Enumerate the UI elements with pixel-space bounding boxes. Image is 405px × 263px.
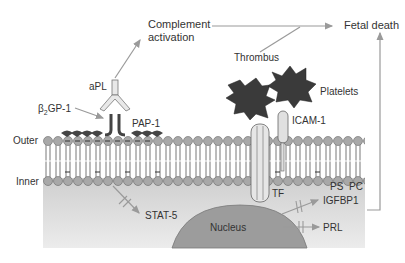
b2gp1-label: β2GP-1 xyxy=(38,103,71,118)
icam1-label: ICAM-1 xyxy=(292,115,326,126)
platelets xyxy=(226,66,316,120)
complement-line1: Complement xyxy=(148,18,210,31)
inner-label: Inner xyxy=(16,176,39,187)
prl-label: PRL xyxy=(323,222,342,233)
igfbp1-label: IGFBP1 xyxy=(323,195,359,206)
pap1-label: PAP-1 xyxy=(132,118,160,129)
pc-label: PC xyxy=(349,181,363,192)
b2gp1-dimer xyxy=(105,114,125,135)
fetal-death-label: Fetal death xyxy=(344,20,399,31)
complement-line2: activation xyxy=(148,31,210,44)
apl-label: aPL xyxy=(89,81,107,92)
ps-label: PS xyxy=(330,181,343,192)
nucleus-label: Nucleus xyxy=(210,222,246,233)
thrombus-label: Thrombus xyxy=(234,52,279,63)
tf-label: TF xyxy=(272,188,284,199)
platelets-label: Platelets xyxy=(320,86,358,97)
b2gp1-name: GP-1 xyxy=(48,103,71,114)
stat5-label: STAT-5 xyxy=(145,210,177,221)
complement-activation-label: Complement activation xyxy=(148,18,210,44)
outer-label: Outer xyxy=(13,135,38,146)
tissue-factor xyxy=(251,124,269,202)
